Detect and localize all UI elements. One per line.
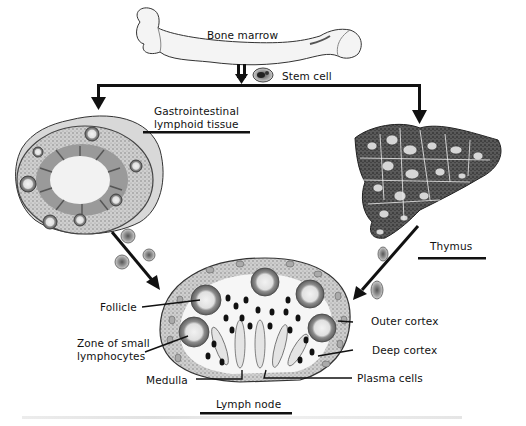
stem-cell-illustration <box>253 68 273 82</box>
label-gi-line2: lymphoid tissue <box>154 118 239 130</box>
thymus-illustration <box>355 124 501 238</box>
label-stem-cell: Stem cell <box>282 70 332 82</box>
label-plasma-cells: Plasma cells <box>357 372 423 384</box>
label-thymus: Thymus <box>430 240 472 252</box>
gastrointestinal-tissue-illustration <box>16 116 164 234</box>
label-medulla: Medulla <box>146 374 188 386</box>
label-bone-marrow: Bone marrow <box>207 29 278 41</box>
label-gi-line1: Gastrointestinal <box>154 105 239 117</box>
lymph-node-illustration <box>160 258 350 382</box>
diagram-svg <box>0 0 526 426</box>
label-follicle: Follicle <box>100 301 137 313</box>
faint-caption-line <box>22 416 462 419</box>
label-lymph-node: Lymph node <box>216 398 281 410</box>
label-deep-cortex: Deep cortex <box>372 344 437 356</box>
label-zone-line1: Zone of small <box>77 337 150 349</box>
label-zone-line2: lymphocytes <box>77 350 145 362</box>
diagram-canvas: Bone marrow Stem cell Gastrointestinal l… <box>0 0 526 426</box>
label-outer-cortex: Outer cortex <box>371 315 438 327</box>
